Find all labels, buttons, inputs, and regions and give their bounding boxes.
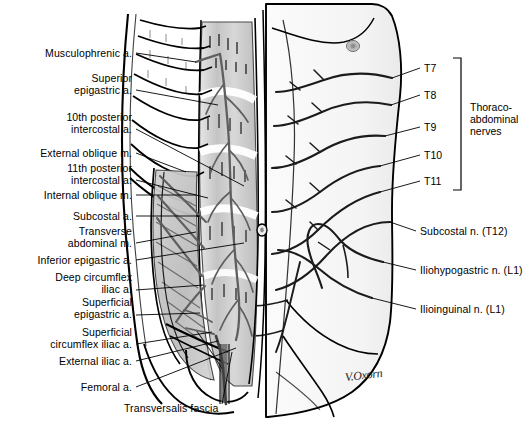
- nipple: [351, 44, 355, 48]
- nerve-level-t9: T9: [424, 122, 436, 134]
- nerve-level-t8: T8: [424, 90, 436, 102]
- label-subcostal-n-t12: Subcostal n. (T12): [420, 226, 508, 238]
- label-superior-epigastric-a: Superior epigastric a.: [74, 73, 132, 96]
- umbilicus: [257, 224, 267, 236]
- thoraco-abdominal-bracket: [453, 58, 461, 190]
- label-superficial-epigastric-a: Superficial epigastric a.: [74, 297, 132, 320]
- label-deep-circumflex-iliac-a: Deep circumflex iliac a.: [55, 272, 132, 295]
- label-inferior-epigastric-a: Inferior epigastric a.: [38, 255, 132, 267]
- label-11th-posterior-intercostal-a: 11th posterior intercostal a.: [67, 163, 132, 186]
- label-10th-posterior-intercostal-a: 10th posterior intercostal a.: [66, 112, 132, 135]
- right-torso-group: [252, 4, 401, 417]
- nerve-level-t10: T10: [424, 150, 442, 162]
- rib-1: [140, 20, 200, 29]
- rib-2: [138, 36, 204, 48]
- label-musculophrenic-a: Musculophrenic a.: [45, 48, 132, 60]
- rib-3: [136, 54, 204, 70]
- label-subcostal-a: Subcostal a.: [73, 211, 132, 223]
- left-torso-group: [122, 10, 267, 414]
- label-external-iliac-a: External iliac a.: [59, 356, 132, 368]
- label-transversalis-fascia: Transversalis fascia: [124, 403, 218, 415]
- label-ilioinguinal-n-l1: Ilioinguinal n. (L1): [420, 304, 505, 316]
- nerve-level-t7: T7: [424, 63, 436, 75]
- thoraco-abdominal-nerves-label: Thoraco- abdominal nerves: [470, 101, 518, 137]
- rectus-abdominis: [200, 22, 258, 386]
- label-external-oblique-m: External oblique m.: [40, 148, 132, 160]
- label-iliohypogastric-n-l1: Iliohypogastric n. (L1): [420, 265, 523, 277]
- label-femoral-a: Femoral a.: [81, 382, 132, 394]
- anatomy-figure: Musculophrenic a.Superior epigastric a.1…: [0, 0, 530, 421]
- label-transverse-abdominal-m: Transverse abdominal m.: [68, 226, 132, 249]
- leader-subcostal-n-t12: [390, 222, 416, 231]
- label-internal-oblique-m: Internal oblique m.: [44, 190, 132, 202]
- nerve-level-t11: T11: [424, 176, 441, 188]
- leader-external-oblique-m: [136, 153, 186, 172]
- bracket-path: [453, 58, 461, 190]
- label-superficial-circumflex-iliac-a: Superficial circumflex iliac a.: [50, 327, 132, 350]
- linea-alba: [258, 10, 265, 398]
